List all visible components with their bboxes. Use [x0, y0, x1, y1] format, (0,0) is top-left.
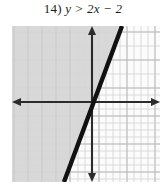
inequality-expression: y > 2x − 2	[65, 1, 122, 16]
coordinate-graph	[12, 26, 160, 182]
graph-svg	[12, 26, 160, 182]
page-title: 14) y > 2x − 2	[0, 1, 166, 17]
problem-number: 14)	[44, 1, 62, 16]
